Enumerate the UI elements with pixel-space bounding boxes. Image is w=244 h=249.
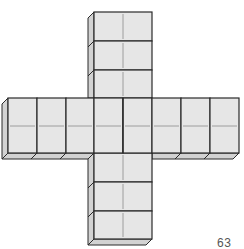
row-block-8 bbox=[210, 98, 239, 153]
row-bottom-left-strip bbox=[2, 153, 94, 159]
row-block-7 bbox=[181, 98, 210, 153]
row-block-4 bbox=[94, 98, 123, 153]
row-block-2 bbox=[37, 98, 66, 153]
column-bottom-side-face bbox=[88, 153, 94, 245]
column-top-side-face bbox=[88, 12, 94, 98]
row-block-1 bbox=[8, 98, 37, 153]
cube-net-figure: 63 bbox=[0, 0, 244, 249]
row-left-side-face bbox=[2, 98, 8, 159]
row-block-6 bbox=[152, 98, 181, 153]
cross-net-diagram bbox=[0, 0, 244, 249]
row-block-5 bbox=[123, 98, 152, 153]
row-bottom-right-strip bbox=[152, 153, 239, 159]
page-number: 63 bbox=[217, 236, 231, 249]
column-bottom-strip bbox=[88, 239, 152, 245]
row-block-3 bbox=[66, 98, 94, 153]
